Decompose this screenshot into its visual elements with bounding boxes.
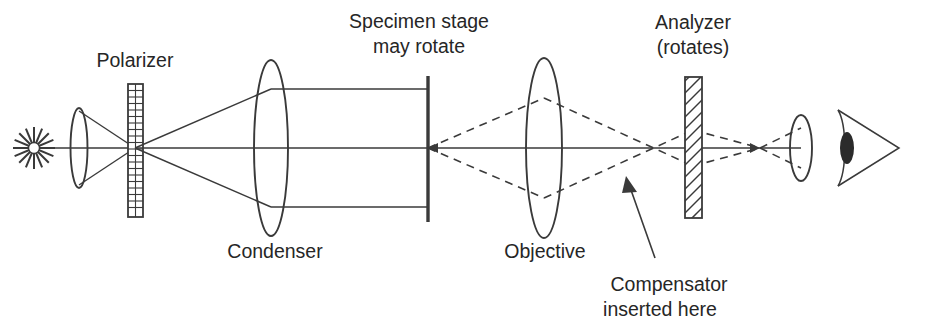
label-specimen-stage-line2: may rotate [373, 35, 465, 57]
label-analyzer-line1: Analyzer [655, 11, 731, 33]
label-polarizer: Polarizer [97, 49, 174, 71]
illumination-rays-right [135, 89, 428, 207]
compensator-pointer-arrow [622, 176, 655, 258]
label-compensator-line2: inserted here [603, 298, 717, 320]
imaging-rays-dashed [428, 98, 801, 198]
label-specimen-stage-line1: Specimen stage [349, 10, 489, 32]
diagram-page: Polarizer Condenser Specimen stage may r… [0, 0, 930, 331]
label-condenser: Condenser [227, 240, 323, 262]
light-source-icon [13, 127, 55, 169]
label-compensator-line1: Compensator [610, 273, 728, 295]
eye-icon [838, 110, 899, 186]
label-analyzer-line2: (rotates) [657, 36, 730, 58]
illumination-rays-left [55, 111, 135, 185]
optical-path-diagram: Polarizer Condenser Specimen stage may r… [0, 0, 930, 331]
analyzer [679, 58, 708, 243]
label-objective: Objective [504, 240, 585, 262]
